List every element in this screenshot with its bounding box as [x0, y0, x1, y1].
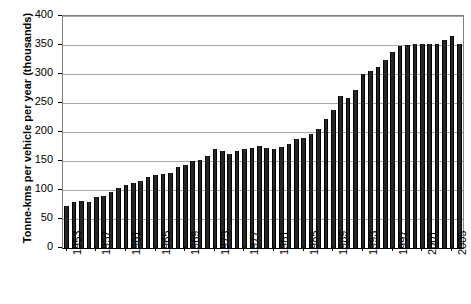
bar: [324, 119, 329, 248]
bar: [116, 188, 121, 248]
x-tick-label: 1969: [189, 231, 201, 255]
plot-area: [62, 15, 464, 249]
x-tick-mark: [95, 247, 96, 251]
x-tick-label: 1961: [130, 231, 142, 255]
bar: [272, 149, 277, 248]
x-tick-label: 1993: [367, 231, 379, 255]
x-tick-label: 1977: [248, 231, 260, 255]
y-tick-label: 250: [0, 95, 53, 107]
bar: [420, 44, 425, 248]
y-tick-label: 50: [0, 211, 53, 223]
bar: [64, 206, 69, 248]
x-tick-mark: [155, 247, 156, 251]
x-tick-mark: [273, 247, 274, 251]
x-tick-mark: [214, 247, 215, 251]
x-tick-mark: [362, 247, 363, 251]
x-tick-mark: [184, 247, 185, 251]
bar: [346, 98, 351, 248]
x-tick-mark: [243, 247, 244, 251]
bar: [331, 110, 336, 248]
y-tick-label: 300: [0, 66, 53, 78]
x-tick-label: 1957: [100, 231, 112, 255]
bar: [205, 156, 210, 248]
bar: [213, 149, 218, 248]
x-tick-mark: [125, 247, 126, 251]
bar: [183, 165, 188, 248]
bar: [390, 52, 395, 248]
bar: [146, 177, 151, 248]
x-tick-label: 2005: [456, 231, 468, 255]
x-tick-label: 1953: [71, 231, 83, 255]
bar: [301, 138, 306, 248]
x-tick-label: 2001: [426, 231, 438, 255]
bar-chart: Tonne-kms per vehicle per year (thousand…: [0, 0, 471, 304]
bar: [87, 202, 92, 248]
bar: [242, 149, 247, 248]
y-tick-label: 100: [0, 182, 53, 194]
y-tick-label: 200: [0, 124, 53, 136]
y-tick-label: 400: [0, 8, 53, 20]
x-tick-mark: [332, 247, 333, 251]
bar: [368, 71, 373, 248]
x-tick-mark: [392, 247, 393, 251]
bar: [294, 139, 299, 248]
bar: [405, 45, 410, 248]
bar: [124, 185, 129, 248]
x-tick-label: 1989: [337, 231, 349, 255]
bar: [153, 175, 158, 248]
y-tick-label: 0: [0, 240, 53, 252]
bar: [94, 197, 99, 248]
y-tick-label: 150: [0, 153, 53, 165]
bar: [427, 44, 432, 248]
bar: [457, 44, 462, 248]
bar: [442, 40, 447, 248]
x-tick-label: 1981: [278, 231, 290, 255]
bar: [353, 90, 358, 248]
bar: [376, 67, 381, 248]
x-tick-label: 1997: [397, 231, 409, 255]
x-tick-label: 1973: [219, 231, 231, 255]
bar: [338, 96, 343, 248]
x-tick-mark: [451, 247, 452, 251]
bar: [450, 36, 455, 248]
bar: [176, 167, 181, 248]
bar: [361, 74, 366, 248]
bar: [383, 60, 388, 248]
x-tick-mark: [421, 247, 422, 251]
bar: [235, 151, 240, 248]
x-tick-mark: [66, 247, 67, 251]
bar: [264, 148, 269, 248]
bar: [398, 46, 403, 248]
x-tick-label: 1985: [308, 231, 320, 255]
y-tick-label: 350: [0, 37, 53, 49]
x-tick-mark: [303, 247, 304, 251]
bar: [413, 44, 418, 248]
bar: [435, 44, 440, 248]
bars-layer: [63, 16, 463, 248]
x-tick-label: 1965: [160, 231, 172, 255]
